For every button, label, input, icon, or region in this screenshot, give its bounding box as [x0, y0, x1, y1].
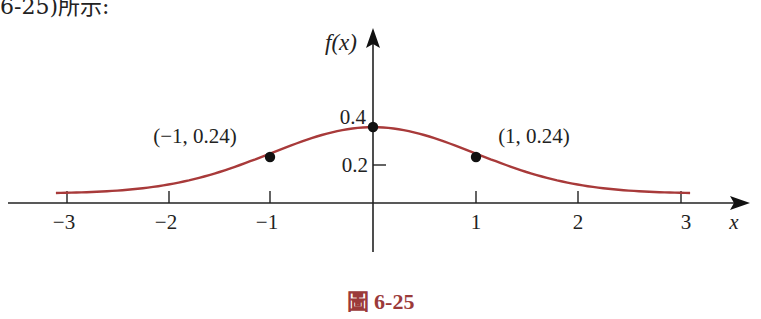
normal-curve-chart: −3 −2 −1 1 2 3 x 0.2 0.4 f(x) (−1, 0.24)…	[0, 0, 761, 319]
y-axis-label: f(x)	[325, 30, 357, 55]
x-tick-labels: −3 −2 −1 1 2 3	[53, 210, 691, 234]
cut-off-body-text: 6-25)所示:	[0, 0, 109, 20]
svg-text:3: 3	[681, 210, 692, 234]
x-axis-label: x	[728, 210, 739, 234]
figure-caption: 圖 6-25	[0, 283, 761, 315]
y-tick-label-0.4: 0.4	[340, 105, 367, 129]
point-minus1	[265, 152, 275, 162]
svg-text:−2: −2	[155, 210, 177, 234]
svg-text:−3: −3	[53, 210, 75, 234]
svg-text:1: 1	[471, 210, 482, 234]
y-tick-label-0.2: 0.2	[342, 153, 368, 177]
point-label-plus1: (1, 0.24)	[498, 124, 570, 148]
point-peak	[368, 122, 378, 132]
point-label-minus1: (−1, 0.24)	[153, 124, 237, 148]
point-plus1	[471, 152, 481, 162]
svg-text:−1: −1	[256, 210, 278, 234]
figure: 6-25)所示: −3 −2 −1 1 2 3 x 0.2	[0, 0, 761, 319]
x-ticks	[67, 191, 681, 203]
svg-text:2: 2	[573, 210, 584, 234]
